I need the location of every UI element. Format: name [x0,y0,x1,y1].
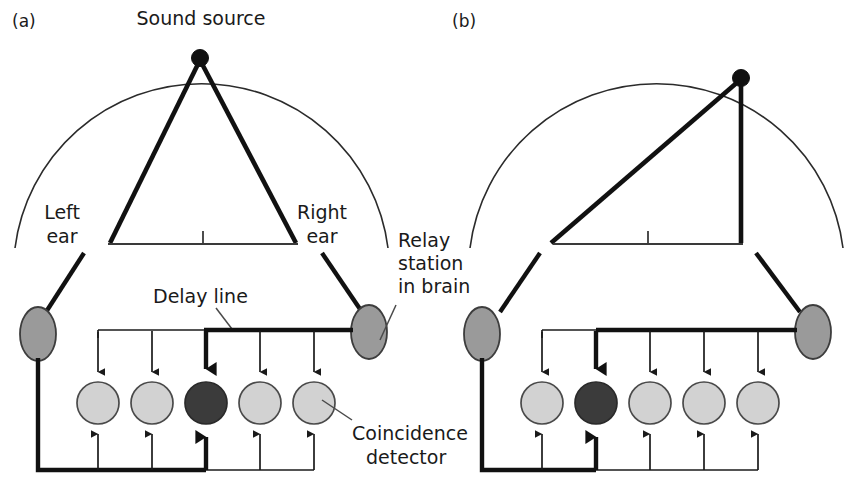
figure-root: (a) Sound source Left ear Right ear [0,0,850,488]
sound-source-label: Sound source [137,7,266,29]
right-ear-label-line1: Right [297,201,347,223]
coincidence-detector-5 [293,382,335,424]
sound-ray-left [110,60,200,243]
nerve-left-b [500,253,540,312]
coincidence-detector-1-b [521,382,563,424]
relay-label-line3: in brain [398,275,470,297]
coincidence-detector-3 [185,382,227,424]
coincidence-detector-2-b [575,382,617,424]
diagram-canvas: (a) Sound source Left ear Right ear [0,0,850,488]
coincidence-detector-3-b [629,382,671,424]
nerve-left [46,253,84,312]
relay-label-line2: station [398,252,463,274]
panel-b: (b) [452,11,843,470]
relay-station-right-b [795,305,831,359]
left-ear-label-line1: Left [44,201,80,223]
delay-line-label: Delay line [153,285,248,307]
panel-a-label: (a) [12,11,36,31]
coincidence-detector-2 [131,382,173,424]
coincidence-detector-4 [239,382,281,424]
coincidence-label-line1: Coincidence [352,422,468,444]
relay-label-line1: Relay [398,229,450,251]
nerve-right [322,253,362,312]
head-arc-b [470,84,843,248]
relay-station-left [20,307,56,361]
nerve-right-b [756,253,800,312]
left-ear-label-line2: ear [46,225,77,247]
relay-station-left-b [464,307,500,361]
sound-ray-right [200,60,296,243]
relay-station-right [351,305,387,359]
panel-b-label: (b) [452,11,476,31]
delay-line-bottom-thick [38,358,206,470]
coincidence-detector-1 [77,382,119,424]
head-arc [15,84,388,248]
coincidence-detector-5-b [737,382,779,424]
right-ear-label-line2: ear [306,225,337,247]
panel-a: (a) Sound source Left ear Right ear [12,7,470,470]
coincidence-label-line2: detector [366,446,446,468]
sound-ray-left-b [551,80,740,243]
delay-line-leader [216,308,232,329]
coincidence-detector-4-b [683,382,725,424]
